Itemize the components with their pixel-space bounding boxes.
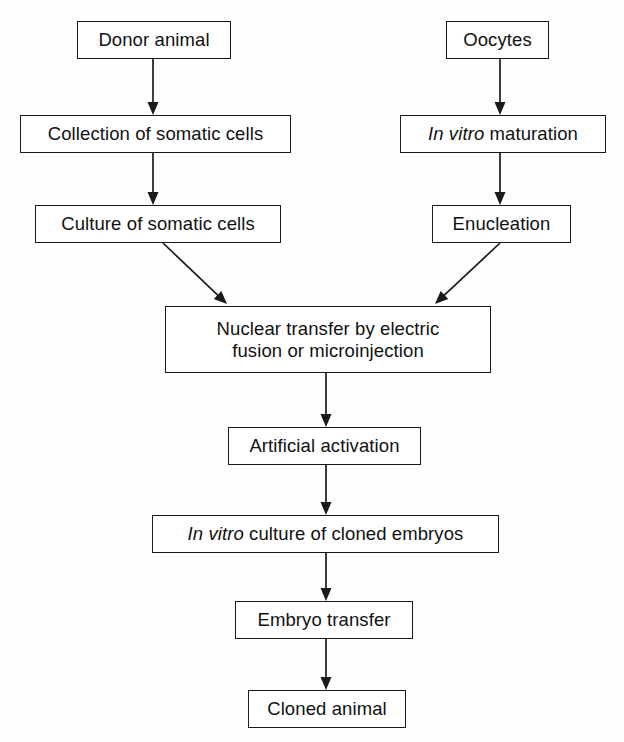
node-label-text: maturation [484, 123, 578, 144]
edge-oocytes-to-maturation [495, 59, 506, 115]
node-label: Cloned animal [267, 698, 387, 720]
flowchart-canvas: Donor animalOocytesCollection of somatic… [0, 0, 624, 742]
node-donor-animal: Donor animal [77, 21, 231, 59]
edge-culture-to-nuclear-transfer [163, 243, 227, 304]
node-label-italic: In vitro [188, 523, 244, 544]
node-label-text: culture of cloned embryos [244, 523, 464, 544]
edge-donor-to-collection [148, 59, 159, 115]
edge-enucleation-to-nuclear-transfer [435, 243, 500, 304]
arrowhead-icon [495, 192, 506, 205]
edge-nuclear-transfer-to-activation [321, 373, 332, 427]
node-artificial-activation: Artificial activation [228, 427, 421, 465]
arrowhead-icon [435, 291, 448, 304]
node-label: Enucleation [453, 213, 551, 235]
arrowhead-icon [321, 677, 332, 690]
arrowhead-icon [321, 502, 332, 515]
arrowhead-icon [495, 102, 506, 115]
node-label: In vitro culture of cloned embryos [188, 523, 464, 545]
edge-maturation-to-enucleation [495, 153, 506, 205]
arrowhead-icon [214, 291, 227, 304]
node-label: Oocytes [463, 29, 532, 51]
node-embryo-transfer: Embryo transfer [235, 601, 413, 639]
node-label: Embryo transfer [257, 609, 390, 631]
edge-culture-to-embryo-transfer [321, 553, 332, 601]
node-culture-of-somatic-cells: Culture of somatic cells [35, 205, 281, 243]
node-label-italic: In vitro [428, 123, 484, 144]
node-nuclear-transfer: Nuclear transfer by electric fusion or m… [165, 306, 491, 373]
edge-activation-to-culture [321, 465, 332, 515]
node-label: In vitro maturation [428, 123, 578, 145]
node-oocytes: Oocytes [446, 21, 549, 59]
node-label: Artificial activation [249, 435, 399, 457]
node-label: Nuclear transfer by electric fusion or m… [217, 318, 440, 362]
edge-line [163, 243, 219, 296]
arrowhead-icon [321, 414, 332, 427]
node-collection-of-somatic-cells: Collection of somatic cells [20, 115, 291, 153]
arrowhead-icon [321, 588, 332, 601]
arrowhead-icon [148, 102, 159, 115]
node-cloned-animal: Cloned animal [248, 690, 406, 728]
edge-line [443, 243, 500, 296]
arrowhead-icon [148, 192, 159, 205]
node-enucleation: Enucleation [432, 205, 571, 243]
edge-collection-to-culture [148, 153, 159, 205]
node-label: Culture of somatic cells [61, 213, 255, 235]
node-label: Collection of somatic cells [48, 123, 264, 145]
edge-embryo-transfer-to-cloned-animal [321, 639, 332, 690]
node-in-vitro-culture-of-cloned-embryos: In vitro culture of cloned embryos [152, 515, 499, 553]
node-in-vitro-maturation: In vitro maturation [400, 115, 606, 153]
node-label: Donor animal [98, 29, 209, 51]
